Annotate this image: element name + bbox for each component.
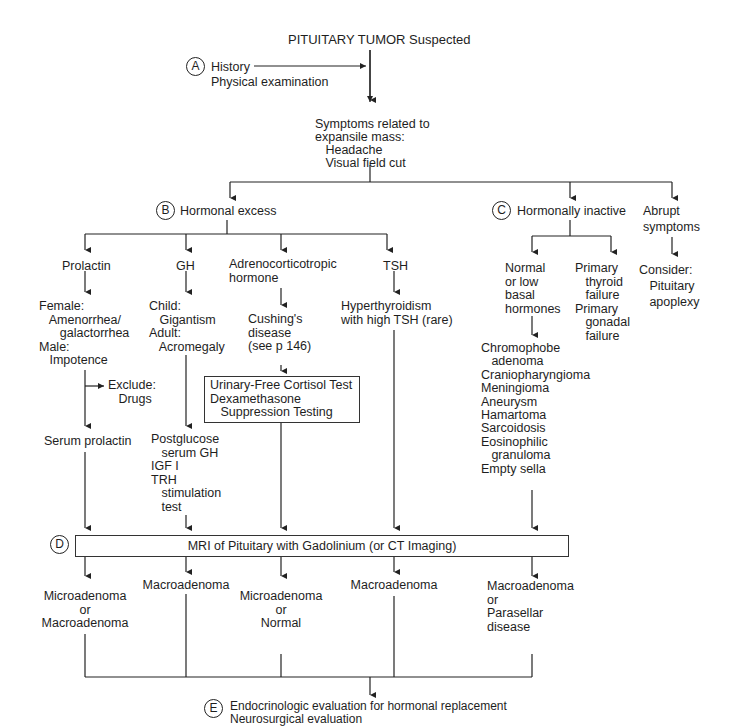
result-gh: Macroadenoma	[141, 577, 231, 593]
step-a-marker: A	[186, 57, 205, 76]
abrupt-symptoms-label: Abrupt symptoms	[643, 203, 700, 235]
mri-text: MRI of Pituitary with Gadolinium (or CT …	[76, 538, 568, 554]
gh-findings: Child: Gigantism Adult: Acromegaly	[149, 300, 225, 354]
prolactin-findings: Female: Amenorrhea/ galactorrhea Male: I…	[39, 300, 129, 368]
neurosurgical-evaluation: Neurosurgical evaluation	[230, 713, 362, 726]
result-inactive: Macroadenoma or Parasellar disease	[487, 580, 574, 634]
acth-label: Adrenocorticotropic hormone	[229, 258, 337, 285]
gh-label: GH	[176, 258, 195, 274]
step-e-marker: E	[204, 699, 223, 718]
step-c-marker: C	[492, 201, 511, 220]
prolactin-label: Prolactin	[62, 258, 111, 274]
hormonally-inactive-label: Hormonally inactive	[517, 203, 626, 219]
result-acth: Microadenoma or Normal	[236, 590, 326, 631]
step-d-marker: D	[50, 535, 69, 554]
tsh-label: TSH	[383, 258, 408, 274]
step-b-marker: B	[156, 201, 175, 220]
result-tsh: Macroadenoma	[349, 577, 439, 593]
cushings-label: Cushing's disease (see p 146)	[248, 313, 311, 354]
cortisol-test-box: Urinary-Free Cortisol Test Dexamethasone…	[204, 376, 360, 423]
gh-tests: Postglucose serum GH IGF I TRH stimulati…	[151, 433, 221, 514]
result-prolactin: Microadenoma or Macroadenoma	[40, 590, 130, 631]
consider-apoplexy-label: Consider: Pituitary apoplexy	[639, 262, 699, 310]
symptoms-line-4: Visual field cut	[315, 155, 406, 171]
physical-exam-label: Physical examination	[211, 74, 328, 90]
differential-diagnosis-list: Chromophobe adenoma Craniopharyngioma Me…	[481, 342, 590, 476]
flowchart-title: PITUITARY TUMOR Suspected	[288, 32, 471, 48]
normal-basal-hormones-label: Normal or low basal hormones	[505, 262, 561, 316]
hormonal-excess-label: Hormonal excess	[180, 203, 277, 219]
cortisol-test-text: Urinary-Free Cortisol Test Dexamethasone…	[210, 379, 352, 420]
mri-box: MRI of Pituitary with Gadolinium (or CT …	[75, 535, 569, 557]
tsh-findings: Hyperthyroidism with high TSH (rare)	[341, 300, 453, 327]
serum-prolactin-label: Serum prolactin	[44, 433, 132, 449]
exclude-drugs-label: Exclude: Drugs	[108, 379, 156, 406]
history-label: History	[211, 59, 250, 75]
primary-failure-label: Primary thyroid failure Primary gonadal …	[575, 262, 630, 343]
